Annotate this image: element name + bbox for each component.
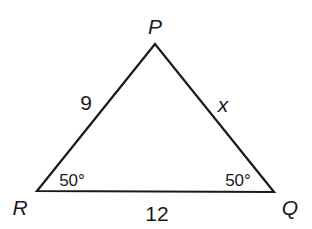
angle-label-r: 50° <box>59 171 85 190</box>
vertex-label-r: R <box>12 196 27 219</box>
side-label-pq: x <box>217 93 230 116</box>
triangle-pqr <box>37 44 274 192</box>
side-label-rq: 12 <box>145 202 168 225</box>
vertex-label-p: P <box>148 15 162 38</box>
triangle-diagram: P R Q 9 x 12 50° 50° <box>0 0 312 229</box>
side-label-pr: 9 <box>80 91 92 114</box>
vertex-label-q: Q <box>282 196 298 219</box>
angle-label-q: 50° <box>225 171 251 190</box>
